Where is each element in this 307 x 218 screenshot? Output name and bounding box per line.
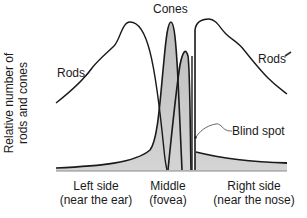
- cones-label: Cones: [153, 2, 188, 16]
- rods-left-curve: [56, 22, 167, 170]
- y-axis-label: Relative number of rods and cones: [2, 28, 30, 178]
- region-right-label: Right side (near the nose): [204, 179, 304, 207]
- region-middle-label: Middle (fovea): [143, 179, 193, 207]
- blind-spot-label: Blind spot: [232, 124, 285, 138]
- region-left-label: Left side (near the ear): [56, 179, 136, 207]
- rods-left-pointer: [86, 68, 92, 76]
- y-axis-label-line1: Relative number of: [2, 28, 16, 178]
- blind-spot-pointer-tip: [194, 136, 196, 138]
- rods-left-label: Rods: [57, 66, 85, 80]
- blind-spot-line: [195, 19, 209, 170]
- region-right-title: Right side: [204, 179, 304, 193]
- region-middle-title: Middle: [143, 179, 193, 193]
- region-middle-subtitle: (fovea): [143, 193, 193, 207]
- region-left-title: Left side: [56, 179, 136, 193]
- region-left-subtitle: (near the ear): [56, 193, 136, 207]
- cones-area: [56, 22, 287, 171]
- y-axis-label-line2: rods and cones: [16, 28, 30, 178]
- rods-right-label: Rods: [258, 52, 286, 66]
- region-right-subtitle: (near the nose): [204, 193, 304, 207]
- rods-cones-distribution-figure: Cones Rods Rods Blind spot Relative numb…: [0, 0, 307, 218]
- blind-spot-pointer: [196, 124, 232, 137]
